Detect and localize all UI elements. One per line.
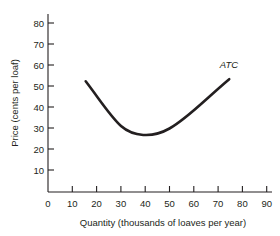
x-tick-label: 20 [91, 198, 102, 209]
x-tick-label: 90 [261, 198, 272, 209]
x-tick-label: 50 [164, 198, 175, 209]
atc-curve-label: ATC [219, 59, 238, 70]
y-axis-ticks [48, 23, 54, 170]
y-tick-label: 20 [33, 144, 44, 155]
x-tick-label: 70 [213, 198, 224, 209]
y-tick-label: 30 [33, 123, 44, 134]
x-tick-label: 80 [237, 198, 248, 209]
y-tick-label: 60 [33, 60, 44, 71]
y-tick-label: 70 [33, 39, 44, 50]
x-tick-label: 40 [140, 198, 151, 209]
x-tick-label: 60 [189, 198, 200, 209]
atc-curve [86, 79, 230, 135]
y-tick-label: 40 [33, 102, 44, 113]
y-tick-label: 50 [33, 81, 44, 92]
x-axis-ticks [72, 186, 266, 192]
x-axis-tick-labels: 0 10 20 30 40 50 60 70 80 90 [45, 198, 272, 209]
x-tick-label: 10 [67, 198, 78, 209]
x-axis-title: Quantity (thousands of loaves per year) [80, 217, 246, 228]
y-axis-title: Price (cents per loaf) [9, 59, 20, 147]
y-axis-tick-labels: 80 70 60 50 40 30 20 10 [33, 18, 44, 176]
chart-figure: 80 70 60 50 40 30 20 10 0 10 20 30 [0, 0, 280, 236]
x-tick-label: 0 [45, 198, 50, 209]
y-tick-label: 10 [33, 165, 44, 176]
atc-cost-curve-chart: 80 70 60 50 40 30 20 10 0 10 20 30 [0, 0, 280, 236]
x-tick-label: 30 [116, 198, 127, 209]
y-tick-label: 80 [33, 18, 44, 29]
